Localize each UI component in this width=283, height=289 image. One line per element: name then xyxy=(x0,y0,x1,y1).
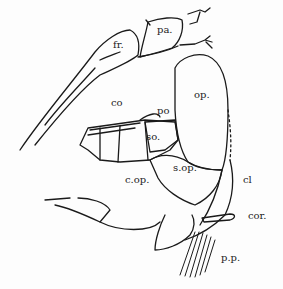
coracoid-outline xyxy=(202,214,235,222)
label-opercle: op. xyxy=(194,90,210,100)
lower-jaw-outline xyxy=(45,198,160,230)
label-coracoid: cor. xyxy=(248,211,266,221)
label-suborbital: so. xyxy=(146,132,160,142)
label-cleithrum: cl xyxy=(243,175,252,185)
label-subopercle: s.op. xyxy=(173,163,197,173)
label-postorbital: po xyxy=(157,106,169,116)
label-parietal: pa. xyxy=(157,25,173,35)
bone-outlines xyxy=(0,0,283,289)
label-cheek-opercle: c.op. xyxy=(125,175,149,185)
pectoral-girdle-outline xyxy=(155,215,194,250)
diagram-canvas: fr. pa. op. co po so. s.op. c.op. cl cor… xyxy=(0,0,283,289)
label-circumorbital: co xyxy=(111,98,123,108)
opercle-outline xyxy=(175,55,228,170)
label-frontal: fr. xyxy=(113,40,124,50)
label-pectoral-fin: p.p. xyxy=(221,253,240,263)
